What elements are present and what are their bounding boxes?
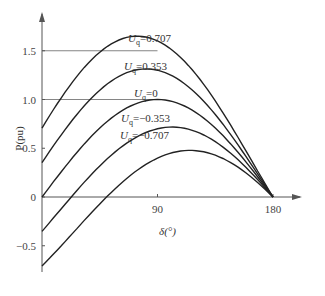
curve-label: Uq=−0.707 (120, 129, 170, 144)
curve-label: Uq=−0.353 (121, 112, 171, 127)
y-tick-label: −0.5 (16, 240, 36, 252)
curve-Uq=-0.353 (42, 127, 273, 231)
y-tick-label: 0 (31, 191, 37, 203)
x-axis-arrow-icon (292, 194, 302, 200)
y-axis-arrow-icon (39, 12, 45, 22)
y-tick-label: 1.0 (22, 94, 36, 106)
y-axis-label: P(pu) (13, 126, 26, 151)
x-axis-label: δ(°) (159, 225, 176, 238)
x-tick-label: 180 (265, 203, 282, 215)
x-tick-label: 90 (152, 203, 164, 215)
y-tick-label: 1.5 (22, 45, 36, 57)
chart: 1.51.00.50−0.590180δ(°)P(pu) Uq=0.707Uq=… (0, 0, 325, 296)
curve-label: Uq=0.353 (124, 60, 167, 75)
